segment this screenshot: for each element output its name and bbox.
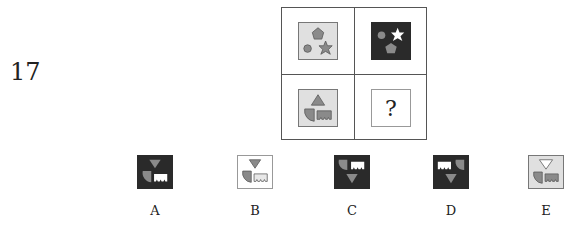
question-number: 17 [10,58,41,86]
tile-light [298,89,338,127]
option-a-label: A [137,203,173,218]
tile-dark [433,155,469,189]
answer-placeholder-tile: ? [371,89,411,127]
quarter-circle-icon [305,109,315,121]
triangle-up-icon [311,95,324,105]
option-b[interactable] [237,155,273,189]
grid-cell-top-right [355,8,427,74]
triangle-down-icon [249,160,260,168]
notched-rectangle-icon [154,174,167,182]
triangle-down-icon [346,174,357,183]
tile-white [237,155,273,189]
notched-rectangle-icon [545,174,558,182]
question-mark: ? [372,90,410,126]
notched-rectangle-icon [438,162,451,170]
option-e[interactable] [528,155,564,189]
option-a[interactable] [137,155,173,189]
option-c-label: C [334,203,370,218]
tile-dark [334,155,370,189]
triangle-down-icon [539,160,552,169]
grid-cell-bottom-left [282,75,354,141]
triangle-down-icon [149,160,160,168]
quarter-circle-icon [339,160,348,170]
tile-dark [137,155,173,189]
tile-dark [371,22,411,60]
pentagon-icon [385,43,396,53]
option-b-label: B [237,203,273,218]
circle-icon [378,32,386,40]
option-d-label: D [433,203,469,218]
option-c[interactable] [334,155,370,189]
tile-light [298,22,338,60]
quarter-circle-icon [243,171,252,182]
star-icon [391,28,404,41]
quarter-circle-icon [143,171,152,182]
tile-light [528,155,564,189]
notched-rectangle-icon [351,162,364,170]
notched-rectangle-icon [317,111,331,120]
triangle-down-icon [445,174,456,183]
grid-cell-top-left [282,8,354,74]
puzzle-grid: ? [281,7,427,140]
star-icon [319,41,332,54]
notched-rectangle-icon [254,174,267,182]
pentagon-icon [312,28,323,39]
option-d[interactable] [433,155,469,189]
quarter-circle-icon [534,172,543,183]
option-e-label: E [528,203,564,218]
circle-icon [304,45,312,53]
grid-cell-bottom-right: ? [355,75,427,141]
quarter-circle-icon [455,160,464,170]
